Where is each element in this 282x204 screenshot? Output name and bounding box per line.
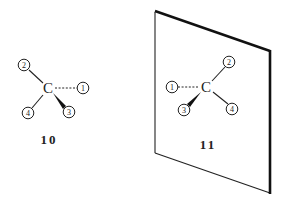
bond-to-4 — [32, 95, 43, 108]
molecule-10: C 2 1 4 3 10 — [18, 59, 89, 147]
substituent-3: 3 — [63, 106, 75, 118]
substituent-4: 4 — [226, 103, 238, 115]
bond-to-2 — [29, 70, 43, 83]
molecule-11: C 2 1 3 4 11 — [166, 56, 238, 152]
enantiomer-diagram: C 2 1 4 3 10 C 2 — [0, 0, 282, 204]
substituent-1: 1 — [77, 82, 89, 94]
compound-label-10: 10 — [41, 132, 58, 147]
mirror-plane — [155, 11, 270, 194]
svg-text:4: 4 — [230, 105, 234, 114]
compound-label-11: 11 — [200, 137, 216, 152]
svg-text:4: 4 — [26, 109, 30, 118]
svg-text:1: 1 — [170, 83, 174, 92]
bond-to-4 — [213, 92, 228, 104]
substituent-4: 4 — [22, 107, 34, 119]
svg-text:3: 3 — [67, 108, 71, 117]
substituent-3: 3 — [178, 104, 190, 116]
bond-to-2 — [212, 67, 225, 81]
wedge-bond-to-3 — [187, 92, 201, 107]
center-atom: C — [43, 80, 53, 96]
svg-text:1: 1 — [81, 84, 85, 93]
substituent-1: 1 — [166, 81, 178, 93]
svg-text:2: 2 — [22, 61, 26, 70]
svg-text:3: 3 — [182, 106, 186, 115]
svg-text:2: 2 — [227, 58, 231, 67]
substituent-2: 2 — [223, 56, 235, 68]
wedge-bond-to-3 — [53, 93, 66, 109]
center-atom: C — [201, 79, 211, 95]
substituent-2: 2 — [18, 59, 30, 71]
